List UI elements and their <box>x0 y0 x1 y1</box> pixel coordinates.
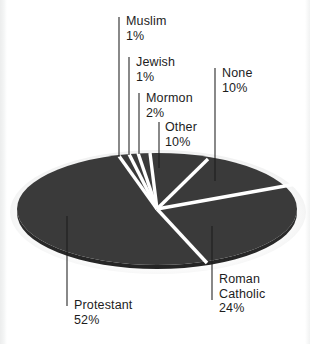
slice-label-roman-catholic-name-line2: Catholic <box>219 287 265 302</box>
slice-label-roman-catholic: Roman Catholic 24% <box>219 272 265 316</box>
slice-label-roman-catholic-name-line1: Roman <box>219 272 265 287</box>
slice-label-mormon: Mormon 2% <box>146 91 193 120</box>
slice-label-protestant-value: 52% <box>74 313 132 328</box>
pie-chart-figure: Muslim 1% Jewish 1% Mormon 2% Other 10% … <box>0 0 310 344</box>
slice-label-other-value: 10% <box>165 135 197 150</box>
slice-label-muslim: Muslim 1% <box>126 14 166 43</box>
slice-label-none-name: None <box>222 66 252 81</box>
slice-label-none-value: 10% <box>222 81 252 96</box>
slice-label-roman-catholic-value: 24% <box>219 301 265 316</box>
slice-label-muslim-name: Muslim <box>126 14 166 29</box>
slice-label-protestant: Protestant 52% <box>74 298 132 327</box>
slice-label-other: Other 10% <box>165 120 197 149</box>
slice-label-none: None 10% <box>222 66 252 95</box>
slice-label-other-name: Other <box>165 120 197 135</box>
slice-label-muslim-value: 1% <box>126 29 166 44</box>
slice-label-mormon-name: Mormon <box>146 91 193 106</box>
slice-label-jewish-value: 1% <box>136 70 175 85</box>
slice-label-jewish-name: Jewish <box>136 55 175 70</box>
slice-label-protestant-name: Protestant <box>74 298 132 313</box>
slice-label-mormon-value: 2% <box>146 106 193 121</box>
slice-label-jewish: Jewish 1% <box>136 55 175 84</box>
